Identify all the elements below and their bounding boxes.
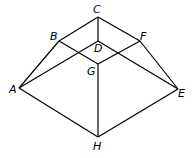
label-point-C: C: [93, 3, 101, 16]
label-point-E: E: [178, 87, 185, 100]
geometry-diagram: ABCDEFGH: [0, 0, 192, 158]
edges: [19, 17, 178, 137]
label-point-G: G: [87, 65, 96, 78]
label-point-D: D: [94, 42, 102, 55]
edge-CF: [98, 17, 140, 41]
label-point-B: B: [50, 30, 58, 43]
label-point-F: F: [140, 30, 147, 43]
edge-FE: [140, 41, 178, 89]
point-labels: ABCDEFGH: [8, 3, 185, 153]
edge-CB: [59, 17, 98, 41]
edge-HE: [98, 89, 178, 137]
edge-DE: [98, 41, 178, 89]
label-point-A: A: [8, 83, 17, 96]
edge-BA: [19, 41, 59, 88]
edge-AH: [19, 88, 98, 137]
label-point-H: H: [93, 140, 101, 153]
